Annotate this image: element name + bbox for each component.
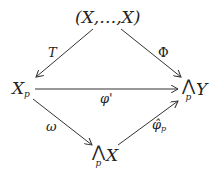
label-phi-hat: φ̂ [152,117,161,132]
node-top-text: (X,…,X) [75,7,140,27]
arrow-top-to-left [36,29,93,77]
node-left-sub: p [24,89,30,99]
wedge-sub: p [186,93,192,102]
node-top: (X,…,X) [75,9,140,26]
label-Phi: Φ [158,46,169,59]
arrow-top-to-right [121,29,181,77]
wedge-sub: p [96,159,102,168]
label-T: T [48,46,57,59]
wedge-power-icon: ⋀ p [182,78,195,102]
commutative-diagram: (X,…,X) Xp ⋀ p Y ⋀ p X T Φ φ' ω φ̂p [0,0,223,177]
label-omega: ω [46,120,57,133]
node-right: ⋀ p Y [182,78,207,102]
label-phi-prime: φ' [100,92,113,105]
node-right-base: Y [196,79,207,99]
label-phi-hat-sub: p [161,124,166,133]
node-left-base: X [12,78,24,98]
label-phi-hat-p: φ̂p [152,118,166,133]
node-bottom: ⋀ p X [92,144,118,168]
arrow-bottom-to-right [118,101,178,145]
node-bottom-base: X [106,145,118,165]
wedge-power-icon: ⋀ p [92,144,105,168]
arrow-left-to-bottom [33,99,92,145]
node-left: Xp [12,80,30,99]
